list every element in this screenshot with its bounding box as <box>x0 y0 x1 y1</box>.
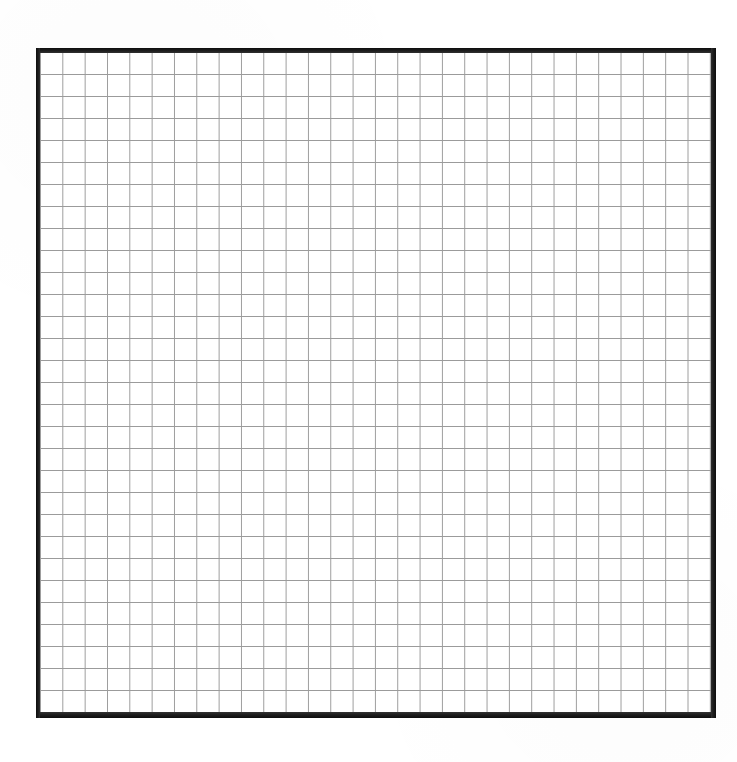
frame-border-left <box>36 48 40 718</box>
frame-border-right <box>711 48 716 718</box>
graph-paper-frame <box>36 48 716 718</box>
graph-paper-grid <box>40 52 712 713</box>
frame-border-top <box>36 48 716 53</box>
scan-page <box>0 0 737 762</box>
frame-border-bottom <box>36 712 716 718</box>
